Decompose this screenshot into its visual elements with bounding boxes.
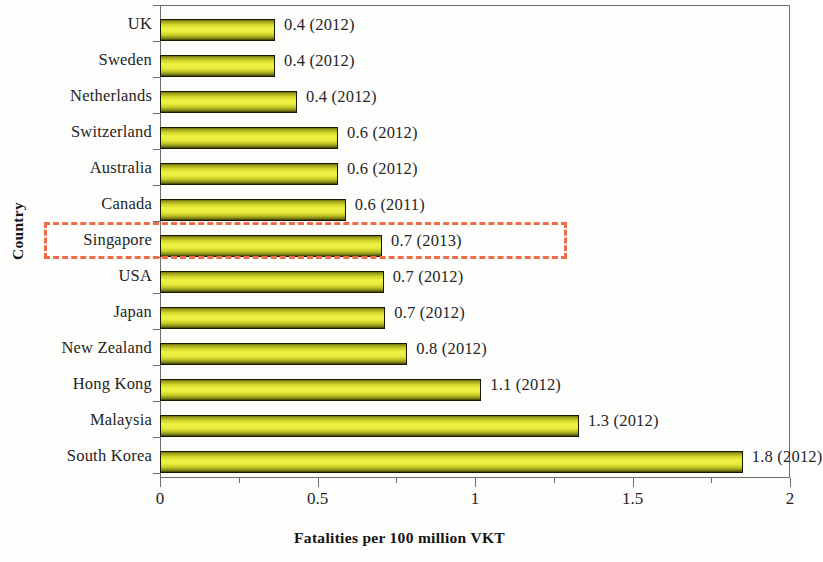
x-axis-tick-label: 2	[786, 489, 795, 509]
bar-row: 0.7 (2012)	[160, 300, 790, 336]
bar-value-label: 0.7 (2012)	[393, 267, 464, 287]
y-axis-category-label: UK	[2, 14, 152, 34]
bar	[160, 307, 385, 329]
y-axis-label-slot: Switzerland	[0, 120, 152, 156]
x-axis-tick-label: 0.5	[307, 489, 328, 509]
y-axis-label-slot: Sweden	[0, 48, 152, 84]
y-axis-label-slot: Singapore	[0, 228, 152, 264]
x-axis-minor-tick	[554, 478, 555, 483]
bar-row: 0.6 (2011)	[160, 192, 790, 228]
y-axis-tick	[153, 293, 160, 294]
bar-value-label: 0.6 (2011)	[355, 195, 425, 215]
y-axis-tick	[153, 221, 160, 222]
y-axis-tick	[153, 437, 160, 438]
y-axis-label-slot: Hong Kong	[0, 372, 152, 408]
y-axis-category-label: USA	[2, 266, 152, 286]
x-axis-tick-label: 1	[471, 489, 480, 509]
bar-row: 0.8 (2012)	[160, 336, 790, 372]
y-axis-label-slot: USA	[0, 264, 152, 300]
y-axis-label-slot: Netherlands	[0, 84, 152, 120]
bar-row: 0.4 (2012)	[160, 84, 790, 120]
bar	[160, 379, 481, 401]
y-axis-category-label: Japan	[2, 302, 152, 322]
bar-value-label: 1.1 (2012)	[490, 375, 561, 395]
y-axis-tick	[153, 473, 160, 474]
bar-value-label: 0.6 (2012)	[347, 159, 418, 179]
y-axis-label-slot: Japan	[0, 300, 152, 336]
bar-row: 0.7 (2013)	[160, 228, 790, 264]
y-axis-tick	[153, 41, 160, 42]
bar-series: 0.4 (2012)0.4 (2012)0.4 (2012)0.6 (2012)…	[160, 5, 790, 478]
bar	[160, 343, 407, 365]
x-axis-tick	[790, 478, 791, 487]
bar-value-label: 0.4 (2012)	[306, 87, 377, 107]
x-axis-tick	[318, 478, 319, 487]
y-axis-tick	[153, 185, 160, 186]
bar	[160, 55, 275, 77]
bar-value-label: 1.3 (2012)	[588, 411, 659, 431]
y-axis-tick	[153, 113, 160, 114]
bar-value-label: 0.4 (2012)	[284, 51, 355, 71]
bar	[160, 19, 275, 41]
y-axis-label-slot: Australia	[0, 156, 152, 192]
y-axis-tick	[153, 365, 160, 366]
y-axis-tick	[153, 401, 160, 402]
y-axis-category-label: Hong Kong	[2, 374, 152, 394]
y-axis-category-label: Switzerland	[2, 122, 152, 142]
bar	[160, 199, 346, 221]
y-axis-tick	[153, 77, 160, 78]
y-axis-category-label: Singapore	[2, 230, 152, 250]
bar-value-label: 0.4 (2012)	[284, 15, 355, 35]
bar-row: 0.6 (2012)	[160, 120, 790, 156]
bar-row: 0.4 (2012)	[160, 48, 790, 84]
x-axis-tick	[160, 478, 161, 487]
bar	[160, 235, 382, 257]
bar-value-label: 0.8 (2012)	[416, 339, 487, 359]
bar-value-label: 1.8 (2012)	[752, 447, 823, 467]
bar-row: 1.3 (2012)	[160, 408, 790, 444]
x-axis-minor-tick	[239, 478, 240, 483]
y-axis-category-label: Malaysia	[2, 410, 152, 430]
y-axis-label-slot: New Zealand	[0, 336, 152, 372]
x-axis-tick-label: 1.5	[622, 489, 643, 509]
x-axis-tick	[475, 478, 476, 487]
x-axis-minor-tick	[711, 478, 712, 483]
bar	[160, 451, 743, 473]
x-axis-tick	[633, 478, 634, 487]
y-axis-tick	[153, 5, 160, 6]
y-axis-category-label: Netherlands	[2, 86, 152, 106]
y-axis-label-slot: Malaysia	[0, 408, 152, 444]
y-axis-category-label: Sweden	[2, 50, 152, 70]
bar-value-label: 0.7 (2013)	[391, 231, 462, 251]
y-axis-category-label: South Korea	[2, 446, 152, 466]
bar-value-label: 0.7 (2012)	[394, 303, 465, 323]
y-axis-label-slot: South Korea	[0, 444, 152, 480]
x-axis-title: Fatalities per 100 million VKT	[0, 529, 799, 547]
y-axis-label-slot: Canada	[0, 192, 152, 228]
y-axis-tick	[153, 149, 160, 150]
bar-row: 1.8 (2012)	[160, 444, 790, 480]
y-axis-tick	[153, 329, 160, 330]
bar-row: 0.6 (2012)	[160, 156, 790, 192]
bar	[160, 91, 297, 113]
bar	[160, 415, 579, 437]
bar-row: 0.7 (2012)	[160, 264, 790, 300]
bar	[160, 271, 384, 293]
y-axis-category-label: Australia	[2, 158, 152, 178]
bar	[160, 163, 338, 185]
y-axis-category-label: New Zealand	[2, 338, 152, 358]
y-axis-category-labels: UKSwedenNetherlandsSwitzerlandAustraliaC…	[0, 5, 152, 478]
y-axis-category-label: Canada	[2, 194, 152, 214]
y-axis-tick	[153, 257, 160, 258]
bar	[160, 127, 338, 149]
bar-value-label: 0.6 (2012)	[347, 123, 418, 143]
bar-row: 1.1 (2012)	[160, 372, 790, 408]
bar-row: 0.4 (2012)	[160, 12, 790, 48]
y-axis-label-slot: UK	[0, 12, 152, 48]
x-axis-tick-label: 0	[156, 489, 165, 509]
x-axis-minor-tick	[396, 478, 397, 483]
